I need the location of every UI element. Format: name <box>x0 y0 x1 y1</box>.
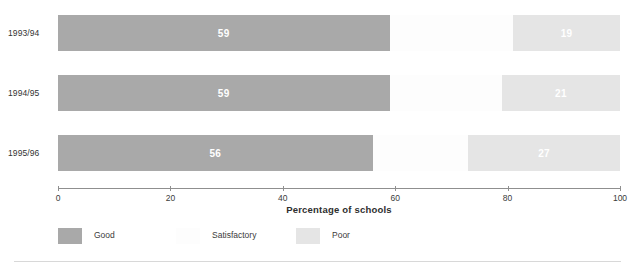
plot-area: 1993/9459191994/9559211995/965627 <box>0 0 635 190</box>
bar-value-label: 56 <box>58 148 373 159</box>
bar-segment-satisfactory <box>373 135 469 171</box>
bar-segment-good: 56 <box>58 135 373 171</box>
axis-tick <box>283 186 284 191</box>
axis-tick-label: 20 <box>166 193 175 203</box>
x-axis-title: Percentage of schools <box>58 204 620 215</box>
category-label-1994-95: 1994/95 <box>8 75 54 111</box>
bar-track: 5627 <box>58 135 620 171</box>
bar-segment-poor: 21 <box>502 75 620 111</box>
axis-tick <box>58 186 59 191</box>
bar-segment-poor: 27 <box>468 135 620 171</box>
bar-segment-good: 59 <box>58 75 390 111</box>
axis-tick <box>170 186 171 191</box>
bar-value-label: 19 <box>513 28 620 39</box>
bar-segment-poor: 19 <box>513 15 620 51</box>
legend-swatch-good <box>58 228 82 244</box>
stacked-bar-chart: 1993/9459191994/9559211995/965627 020406… <box>0 0 635 266</box>
legend-label: Poor <box>332 230 350 240</box>
bar-track: 5921 <box>58 75 620 111</box>
bar-row: 1995/965627 <box>0 135 635 171</box>
legend-label: Good <box>94 230 115 240</box>
footer-divider <box>14 261 621 262</box>
bar-segment-satisfactory <box>390 15 514 51</box>
axis-tick <box>620 186 621 191</box>
bar-value-label: 27 <box>468 148 620 159</box>
axis-tick-label: 40 <box>278 193 287 203</box>
bar-segment-good: 59 <box>58 15 390 51</box>
bar-track: 5919 <box>58 15 620 51</box>
bar-value-label: 59 <box>58 28 390 39</box>
legend-label: Satisfactory <box>212 230 256 240</box>
axis-tick <box>395 186 396 191</box>
axis-tick-label: 60 <box>390 193 399 203</box>
axis-tick-label: 80 <box>503 193 512 203</box>
category-label-1993-94: 1993/94 <box>8 15 54 51</box>
x-axis-line <box>58 188 620 189</box>
bar-value-label: 59 <box>58 88 390 99</box>
bar-row: 1993/945919 <box>0 15 635 51</box>
legend-swatch-poor <box>296 228 320 244</box>
legend-swatch-satisfactory <box>176 228 200 244</box>
axis-tick-label: 100 <box>613 193 627 203</box>
bar-row: 1994/955921 <box>0 75 635 111</box>
bar-segment-satisfactory <box>390 75 502 111</box>
bar-value-label: 21 <box>502 88 620 99</box>
category-label-1995-96: 1995/96 <box>8 135 54 171</box>
axis-tick <box>508 186 509 191</box>
axis-tick-label: 0 <box>56 193 61 203</box>
